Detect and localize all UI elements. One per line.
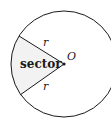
sector-diagram: O r r sector (0, 0, 111, 126)
sector-label: sector (20, 57, 62, 71)
center-point (62, 62, 65, 65)
radius-label-upper: r (43, 36, 49, 49)
center-label: O (67, 50, 76, 63)
radius-label-lower: r (43, 80, 49, 93)
